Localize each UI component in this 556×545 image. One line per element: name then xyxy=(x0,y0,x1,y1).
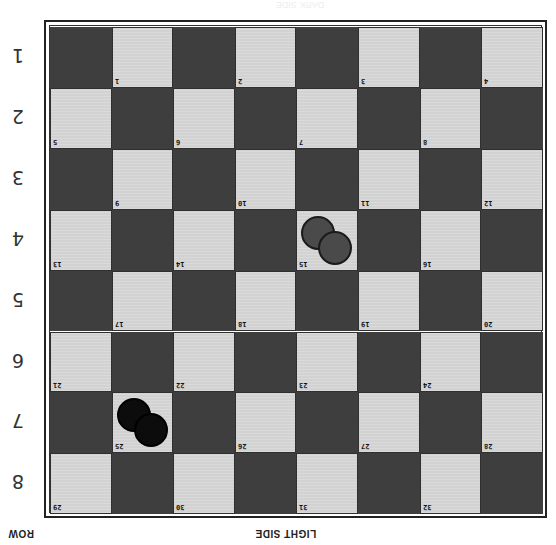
dark-square[interactable] xyxy=(235,453,297,514)
dark-square[interactable] xyxy=(296,392,358,453)
dark-square[interactable] xyxy=(173,149,235,210)
square-27[interactable]: 27 xyxy=(358,392,420,453)
dark-square[interactable] xyxy=(420,149,482,210)
square-number: 26 xyxy=(238,442,246,449)
square-30[interactable]: 30 xyxy=(173,453,235,514)
dark-square[interactable] xyxy=(173,392,235,453)
dark-square[interactable] xyxy=(420,392,482,453)
row-axis-label: ROW xyxy=(8,528,34,539)
dark-square[interactable] xyxy=(358,453,420,514)
square-8[interactable]: 8 xyxy=(420,88,482,149)
dark-square[interactable] xyxy=(112,332,174,393)
dark-square[interactable] xyxy=(481,332,543,393)
square-25[interactable]: 25 xyxy=(112,392,174,453)
black-checker-piece[interactable] xyxy=(134,413,168,447)
square-29[interactable]: 29 xyxy=(50,453,112,514)
square-number: 13 xyxy=(53,260,61,267)
square-4[interactable]: 4 xyxy=(481,27,543,88)
square-5[interactable]: 5 xyxy=(50,88,112,149)
square-number: 11 xyxy=(361,199,369,206)
square-number: 2 xyxy=(238,77,242,84)
dark-square[interactable] xyxy=(112,210,174,271)
dark-square[interactable] xyxy=(50,392,112,453)
dark-square[interactable] xyxy=(296,27,358,88)
square-10[interactable]: 10 xyxy=(235,149,297,210)
square-24[interactable]: 24 xyxy=(420,332,482,393)
row-label-4: 4 xyxy=(6,228,30,250)
dark-square[interactable] xyxy=(173,27,235,88)
square-20[interactable]: 20 xyxy=(481,271,543,332)
square-7[interactable]: 7 xyxy=(296,88,358,149)
dark-square[interactable] xyxy=(50,27,112,88)
square-number: 20 xyxy=(484,320,492,327)
square-number: 5 xyxy=(53,138,57,145)
square-number: 19 xyxy=(361,320,369,327)
dark-square[interactable] xyxy=(358,88,420,149)
dark-square[interactable] xyxy=(235,210,297,271)
square-number: 15 xyxy=(299,260,307,267)
row-label-7: 7 xyxy=(6,410,30,432)
square-11[interactable]: 11 xyxy=(358,149,420,210)
square-3[interactable]: 3 xyxy=(358,27,420,88)
square-12[interactable]: 12 xyxy=(481,149,543,210)
square-number: 27 xyxy=(361,442,369,449)
square-6[interactable]: 6 xyxy=(173,88,235,149)
dark-square[interactable] xyxy=(112,88,174,149)
dark-square[interactable] xyxy=(481,453,543,514)
square-number: 6 xyxy=(176,138,180,145)
dark-square[interactable] xyxy=(235,88,297,149)
square-9[interactable]: 9 xyxy=(112,149,174,210)
square-21[interactable]: 21 xyxy=(50,332,112,393)
square-number: 21 xyxy=(53,381,61,388)
square-number: 29 xyxy=(53,503,61,510)
square-19[interactable]: 19 xyxy=(358,271,420,332)
square-number: 1 xyxy=(115,77,119,84)
dark-square[interactable] xyxy=(50,271,112,332)
checkerboard: 1234567891011121314151617181920212223242… xyxy=(50,27,543,514)
square-22[interactable]: 22 xyxy=(173,332,235,393)
square-number: 12 xyxy=(484,199,492,206)
dark-square[interactable] xyxy=(481,210,543,271)
dark-square[interactable] xyxy=(173,271,235,332)
dark-square[interactable] xyxy=(296,271,358,332)
square-14[interactable]: 14 xyxy=(173,210,235,271)
dark-square[interactable] xyxy=(358,210,420,271)
row-label-6: 6 xyxy=(6,350,30,372)
square-number: 4 xyxy=(484,77,488,84)
row-label-8: 8 xyxy=(6,471,30,493)
square-15[interactable]: 15 xyxy=(296,210,358,271)
gray-checker-piece[interactable] xyxy=(318,231,352,265)
square-31[interactable]: 31 xyxy=(296,453,358,514)
light-side-label: LIGHT SIDE xyxy=(255,528,316,539)
dark-square[interactable] xyxy=(481,88,543,149)
dark-square[interactable] xyxy=(112,453,174,514)
dark-square[interactable] xyxy=(358,332,420,393)
square-number: 31 xyxy=(299,503,307,510)
square-32[interactable]: 32 xyxy=(420,453,482,514)
square-26[interactable]: 26 xyxy=(235,392,297,453)
dark-square[interactable] xyxy=(420,271,482,332)
square-23[interactable]: 23 xyxy=(296,332,358,393)
square-17[interactable]: 17 xyxy=(112,271,174,332)
row-label-3: 3 xyxy=(6,167,30,189)
square-number: 14 xyxy=(176,260,184,267)
square-number: 3 xyxy=(361,77,365,84)
square-number: 10 xyxy=(238,199,246,206)
square-13[interactable]: 13 xyxy=(50,210,112,271)
square-16[interactable]: 16 xyxy=(420,210,482,271)
square-number: 30 xyxy=(176,503,184,510)
square-28[interactable]: 28 xyxy=(481,392,543,453)
dark-square[interactable] xyxy=(50,149,112,210)
square-18[interactable]: 18 xyxy=(235,271,297,332)
square-1[interactable]: 1 xyxy=(112,27,174,88)
dark-square[interactable] xyxy=(235,332,297,393)
square-number: 9 xyxy=(115,199,119,206)
dark-square[interactable] xyxy=(420,27,482,88)
row-label-1: 1 xyxy=(6,45,30,67)
dark-square[interactable] xyxy=(296,149,358,210)
square-number: 7 xyxy=(299,138,303,145)
square-number: 18 xyxy=(238,320,246,327)
square-number: 16 xyxy=(423,260,431,267)
square-2[interactable]: 2 xyxy=(235,27,297,88)
square-number: 17 xyxy=(115,320,123,327)
